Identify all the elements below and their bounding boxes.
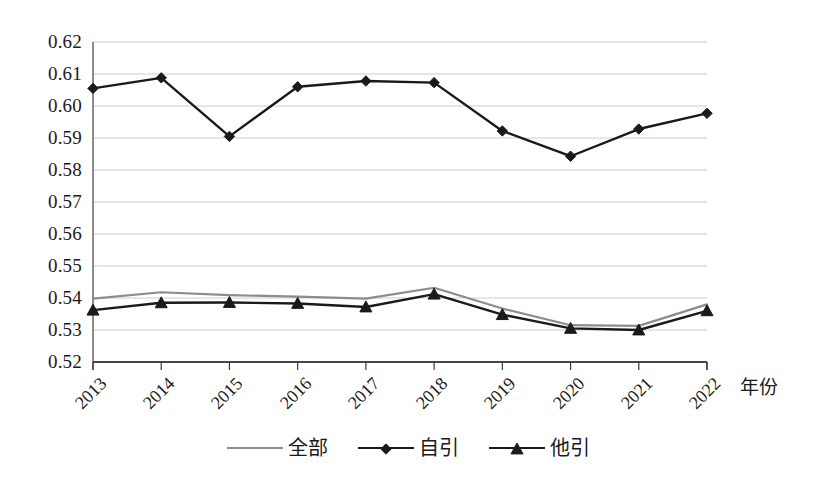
legend-marker-shape bbox=[511, 443, 523, 454]
y-axis-tick-label: 0.52 bbox=[20, 352, 82, 371]
legend-item-全部[interactable]: 全部 bbox=[227, 438, 328, 458]
y-axis-tick-label: 0.59 bbox=[20, 128, 82, 147]
legend-item-他引[interactable]: 他引 bbox=[489, 438, 590, 458]
y-axis-tick-label: 0.60 bbox=[20, 96, 82, 115]
y-axis-tick-label: 0.55 bbox=[20, 256, 82, 275]
legend-item-自引[interactable]: 自引 bbox=[358, 438, 459, 458]
legend-label: 自引 bbox=[419, 438, 459, 458]
y-axis-tick-label: 0.61 bbox=[20, 64, 82, 83]
series-全部 bbox=[93, 288, 707, 326]
legend-triangle-marker-icon bbox=[510, 442, 524, 456]
legend-line-icon bbox=[227, 447, 283, 449]
y-axis-tick-label: 0.56 bbox=[20, 224, 82, 243]
series-他引 bbox=[87, 288, 713, 335]
datapoint-自引-2022 bbox=[702, 108, 712, 118]
chart-legend: 全部自引他引 bbox=[0, 438, 816, 458]
y-axis-tick-label: 0.57 bbox=[20, 192, 82, 211]
legend-swatch-全部 bbox=[227, 440, 283, 456]
series-line-自引 bbox=[93, 78, 707, 156]
y-axis-tick-label: 0.58 bbox=[20, 160, 82, 179]
datapoint-自引-2021 bbox=[634, 124, 644, 134]
legend-label: 全部 bbox=[288, 438, 328, 458]
legend-swatch-他引 bbox=[489, 440, 545, 456]
datapoint-自引-2017 bbox=[361, 76, 371, 86]
y-axis-tick-label: 0.53 bbox=[20, 320, 82, 339]
series-自引 bbox=[88, 73, 712, 162]
x-axis-title: 年份 bbox=[740, 378, 778, 397]
gridlines bbox=[93, 42, 707, 362]
legend-diamond-marker-icon bbox=[379, 442, 393, 456]
datapoint-自引-2013 bbox=[88, 83, 98, 93]
x-axis bbox=[93, 362, 707, 370]
y-axis-tick-label: 0.62 bbox=[20, 32, 82, 51]
legend-swatch-自引 bbox=[358, 440, 414, 456]
legend-label: 他引 bbox=[550, 438, 590, 458]
datapoint-自引-2020 bbox=[565, 151, 575, 161]
series-line-全部 bbox=[93, 288, 707, 326]
legend-marker-shape bbox=[380, 444, 390, 454]
y-axis-tick-label: 0.54 bbox=[20, 288, 82, 307]
line-chart: 0.620.610.600.590.580.570.560.550.540.53… bbox=[0, 0, 816, 496]
plot-area bbox=[0, 0, 816, 496]
